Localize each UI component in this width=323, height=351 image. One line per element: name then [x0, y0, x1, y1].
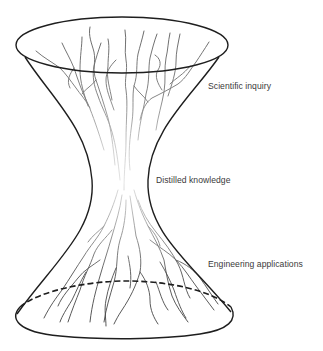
- bottom-rim-back: [20, 281, 231, 307]
- label-engineering-applications: Engineering applications: [208, 259, 303, 269]
- top-rim: [16, 17, 228, 73]
- lower-veins: [44, 190, 218, 326]
- left-profile: [17, 57, 92, 314]
- label-scientific-inquiry: Scientific inquiry: [208, 81, 271, 91]
- label-distilled-knowledge: Distilled knowledge: [156, 175, 231, 185]
- bottom-rim-front: [16, 307, 233, 339]
